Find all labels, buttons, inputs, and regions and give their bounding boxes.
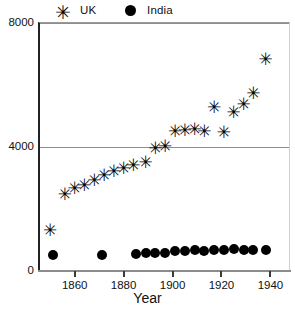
- legend-item-india: India: [125, 0, 173, 20]
- data-point-uk: ✳: [196, 122, 213, 139]
- data-point-india: [180, 246, 190, 256]
- data-point-india: [229, 244, 239, 254]
- gridline: [40, 23, 289, 24]
- data-point-uk: ✳: [245, 85, 262, 102]
- data-point-india: [239, 245, 249, 255]
- legend-label-india: India: [147, 4, 173, 16]
- data-point-india: [160, 248, 170, 258]
- x-axis-tick: [74, 271, 76, 277]
- x-axis-tick: [123, 271, 125, 277]
- y-axis-tick-label: 0: [0, 264, 34, 276]
- chart-legend: ✳ UK India: [0, 0, 295, 20]
- x-axis-tick: [269, 271, 271, 277]
- asterisk-icon: ✳: [55, 5, 69, 19]
- scatter-chart: ✳ UK India 040008000 1860188019001920194…: [0, 0, 295, 310]
- data-point-uk: ✳: [42, 221, 59, 238]
- data-point-india: [248, 245, 258, 255]
- data-point-india: [150, 248, 160, 258]
- data-point-india: [219, 245, 229, 255]
- filled-circle-icon: [125, 5, 136, 16]
- data-point-uk: ✳: [157, 138, 174, 155]
- x-axis-line: [38, 270, 291, 272]
- data-point-uk: ✳: [206, 99, 223, 116]
- y-axis-tick-label: 8000: [0, 16, 34, 28]
- x-axis-tick: [172, 271, 174, 277]
- legend-label-uk: UK: [80, 4, 96, 16]
- data-point-india: [170, 246, 180, 256]
- data-point-india: [261, 245, 271, 255]
- data-point-uk: ✳: [257, 51, 274, 68]
- data-point-india: [199, 246, 209, 256]
- data-point-india: [190, 245, 200, 255]
- x-axis-tick: [220, 271, 222, 277]
- legend-item-uk: ✳ UK: [55, 0, 96, 20]
- data-point-india: [131, 249, 141, 259]
- data-point-uk: ✳: [215, 124, 232, 141]
- data-point-india: [48, 250, 58, 260]
- data-point-india: [97, 250, 107, 260]
- data-point-india: [209, 245, 219, 255]
- data-point-india: [141, 248, 151, 258]
- y-axis-tick-label: 4000: [0, 140, 34, 152]
- x-axis-title: Year: [0, 290, 295, 306]
